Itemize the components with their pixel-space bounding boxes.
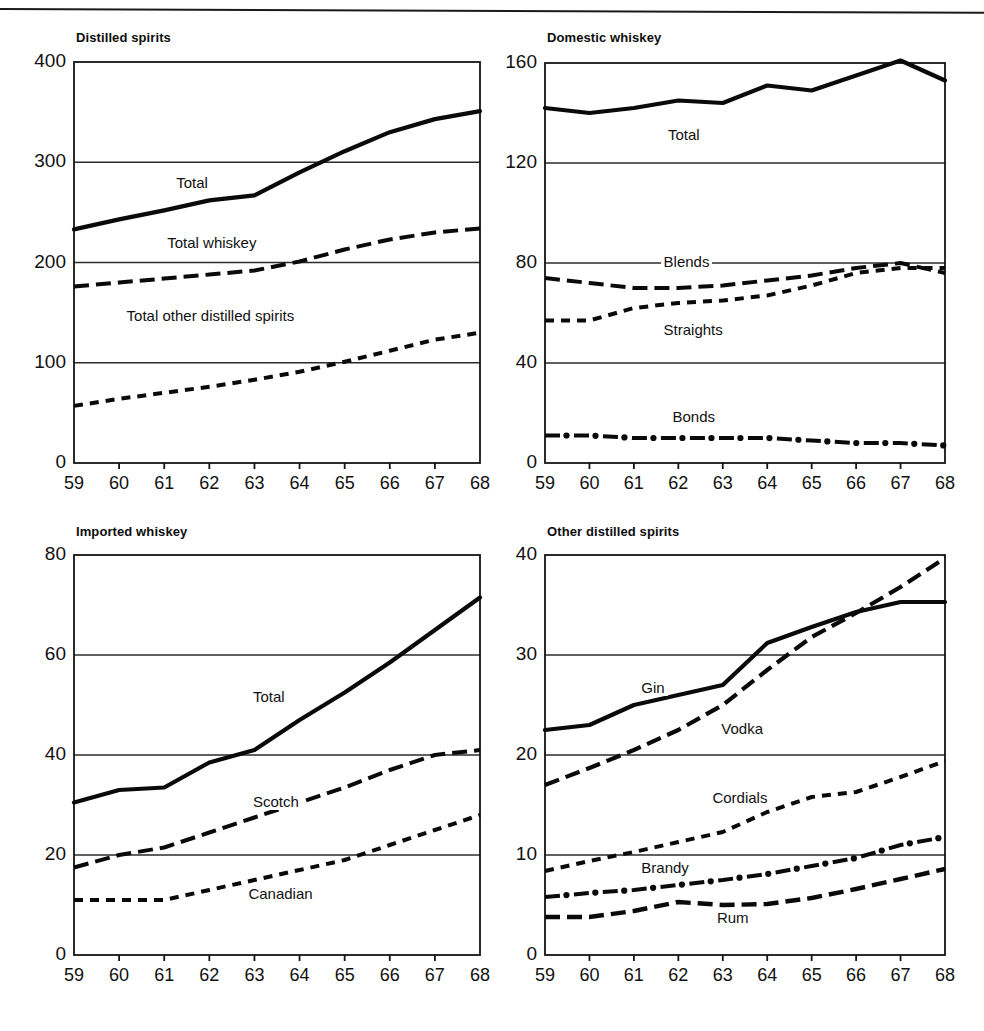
series-label-gin: Gin [638,679,667,696]
y-axis-tick-label: 30 [481,643,537,665]
chart-title: Imported whiskey [76,524,187,539]
x-axis-tick-label: 66 [836,965,876,986]
series-line-rum [545,869,945,917]
series-marker [911,441,917,447]
plot-frame [545,555,945,955]
plot-frame [74,555,480,955]
series-label-rum: Rum [714,909,752,926]
chart-title: Domestic whiskey [547,30,661,45]
series-marker [882,440,888,446]
chart-title: Distilled spirits [76,30,171,45]
x-axis-tick-label: 64 [280,473,320,494]
x-axis-tick-label: 62 [189,965,229,986]
x-axis-tick-label: 63 [234,965,274,986]
x-axis-tick-label: 68 [460,473,500,494]
x-axis-tick-label: 60 [99,965,139,986]
series-label-vodka: Vodka [718,720,766,737]
y-axis-tick-label: 10 [481,843,537,865]
series-line-total [545,61,945,114]
series-marker [935,835,941,841]
plot-area [0,0,984,1031]
y-axis-tick-label: 80 [481,251,537,273]
x-axis-tick-label: 65 [325,473,365,494]
x-axis-tick-label: 63 [703,473,743,494]
x-axis-tick-label: 65 [792,965,832,986]
series-marker [563,892,569,898]
series-label-bonds: Bonds [669,408,718,425]
series-label-brandy: Brandy [638,859,692,876]
series-marker [592,889,598,895]
series-marker [824,438,830,444]
y-axis-tick-label: 80 [10,543,66,565]
x-axis-tick-label: 68 [460,965,500,986]
x-axis-tick-label: 59 [54,965,94,986]
series-marker [765,871,771,877]
y-axis-tick-label: 200 [10,251,66,273]
y-axis-tick-label: 120 [481,151,537,173]
series-line-brandy [545,837,945,897]
x-axis-tick-label: 59 [525,473,565,494]
x-axis-tick-label: 59 [54,473,94,494]
series-label-total-other-distilled-spirits: Total other distilled spirits [124,307,298,324]
y-axis-tick-label: 160 [481,51,537,73]
x-axis-tick-label: 67 [881,965,921,986]
x-axis-tick-label: 63 [703,965,743,986]
x-axis-tick-label: 64 [747,473,787,494]
x-axis-tick-label: 62 [189,473,229,494]
series-line-total [74,598,480,803]
x-axis-tick-label: 68 [925,473,965,494]
x-axis-tick-label: 65 [792,473,832,494]
series-marker [650,435,656,441]
plot-area [0,0,984,1031]
series-marker [621,434,627,440]
series-marker [853,440,859,446]
x-axis-tick-label: 63 [234,473,274,494]
chart-panel-domestic-whiskey: Domestic whiskey040801201605960616263646… [0,0,984,1031]
y-axis-tick-label: 300 [10,150,66,172]
series-marker [679,881,685,887]
series-marker [737,435,743,441]
series-label-total: Total [173,174,211,191]
y-axis-tick-label: 40 [481,543,537,565]
x-axis-tick-label: 68 [925,965,965,986]
series-marker [679,435,685,441]
x-axis-tick-label: 67 [415,473,455,494]
y-axis-tick-label: 0 [481,943,537,965]
series-line-canadian [74,815,480,900]
plot-frame [545,63,945,463]
series-label-total-whiskey: Total whiskey [164,234,259,251]
x-axis-tick-label: 64 [280,965,320,986]
y-axis-tick-label: 40 [10,743,66,765]
chart-panel-other-distilled-spirits: Other distilled spirits01020304059606162… [0,0,984,1031]
x-axis-tick-label: 61 [144,473,184,494]
series-label-total: Total [250,688,288,705]
x-axis-tick-label: 60 [99,473,139,494]
x-axis-tick-label: 66 [370,473,410,494]
series-line-total [74,111,480,229]
series-marker [708,878,714,884]
series-label-straights: Straights [661,321,726,338]
series-label-total: Total [665,126,703,143]
x-axis-tick-label: 65 [325,965,365,986]
x-axis-tick-label: 61 [144,965,184,986]
plot-area [0,0,984,1031]
series-marker [766,435,772,441]
y-axis-tick-label: 100 [10,351,66,373]
plot-frame [74,62,480,463]
series-marker [940,442,946,448]
x-axis-tick-label: 61 [614,965,654,986]
top-horizontal-rule [0,8,984,14]
series-marker [794,866,800,872]
series-label-scotch: Scotch [250,793,302,810]
y-axis-tick-label: 400 [10,50,66,72]
series-line-blends [545,263,945,288]
series-marker [708,435,714,441]
series-marker [592,433,598,439]
y-axis-tick-label: 40 [481,351,537,373]
series-marker [563,432,569,438]
series-line-cordials [545,761,945,871]
x-axis-tick-label: 67 [881,473,921,494]
series-marker [879,847,885,853]
series-marker [621,888,627,894]
y-axis-tick-label: 20 [481,743,537,765]
